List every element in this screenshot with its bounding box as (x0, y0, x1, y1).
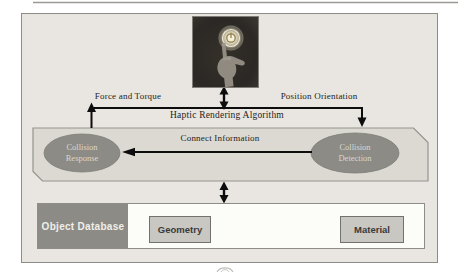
database-bidirectional-arrow (220, 182, 229, 204)
power-symbol-icon (227, 33, 235, 42)
force-torque-label: Force and Torque (78, 91, 178, 101)
caption-arc-mark (217, 268, 233, 272)
collision-response-label: Collision Response (52, 142, 112, 163)
object-database-header: Object Database (38, 204, 128, 248)
geometry-box: Geometry (149, 216, 211, 243)
force-torque-arrow (87, 103, 96, 129)
position-orientation-label: Position Orientation (269, 91, 369, 101)
hand-touch-photo (193, 17, 258, 87)
hand-bidirectional-arrow (220, 86, 229, 110)
object-database-container: Object Database Geometry Material (37, 203, 425, 249)
connect-information-label: Connect Information (160, 133, 280, 143)
figure-canvas: Force and Torque Position Orientation Ha… (0, 0, 458, 280)
hand-touch-illustration (193, 17, 258, 87)
position-orientation-arrow (358, 107, 367, 127)
collision-detection-label: Collision Detection (325, 142, 385, 163)
haptic-rendering-algorithm-label: Haptic Rendering Algorithm (151, 110, 303, 120)
material-box: Material (340, 216, 404, 243)
